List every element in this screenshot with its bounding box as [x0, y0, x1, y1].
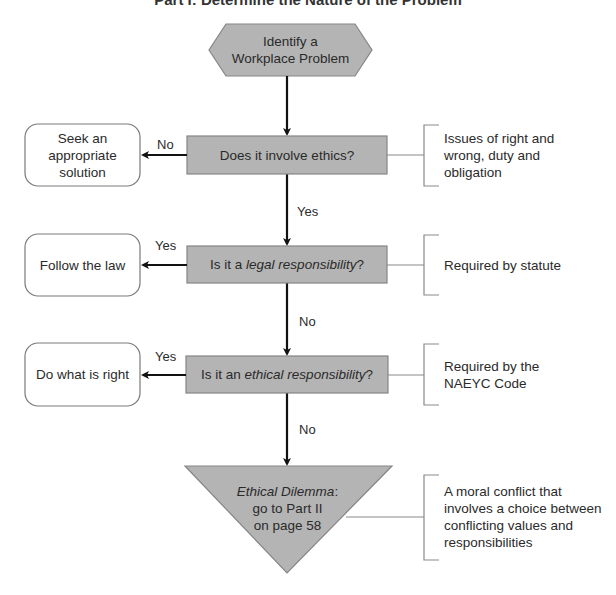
- note-ethics: Issues of right and wrong, duty and obli…: [444, 130, 554, 181]
- note-line: obligation: [444, 164, 554, 181]
- outcome-line: Seek an: [58, 130, 108, 147]
- start-line-1: Identify a: [263, 33, 318, 50]
- start-line-2: Workplace Problem: [232, 50, 350, 67]
- note-line: A moral conflict that: [444, 483, 602, 500]
- outcome-line: Follow the law: [40, 257, 126, 274]
- branch-label-q2-side: Yes: [155, 238, 176, 254]
- note-line: Required by statute: [444, 257, 561, 274]
- bracket-end-note: [424, 475, 439, 560]
- note-legal: Required by statute: [444, 257, 561, 274]
- question-text: Is it an: [201, 367, 245, 382]
- question-suffix: ?: [356, 257, 364, 272]
- outcome-line: appropriate: [48, 147, 116, 164]
- question-emphasis: legal responsibility: [246, 257, 356, 272]
- outcome-do-right-label: Do what is right: [25, 343, 140, 406]
- note-line: Issues of right and: [444, 130, 554, 147]
- note-line: conflicting values and: [444, 517, 602, 534]
- outcome-line: Do what is right: [36, 366, 129, 383]
- question-text: Does it involve ethics?: [220, 148, 354, 163]
- start-label: Identify a Workplace Problem: [209, 24, 372, 76]
- note-ethical-dilemma: A moral conflict that involves a choice …: [444, 483, 602, 551]
- decision-legal-label: Is it a legal responsibility?: [187, 246, 387, 283]
- branch-label-q3-side: Yes: [155, 349, 176, 365]
- note-line: wrong, duty and: [444, 147, 554, 164]
- note-line: Required by the: [444, 358, 539, 375]
- question-suffix: ?: [365, 367, 373, 382]
- decision-ethics-label: Does it involve ethics?: [187, 136, 387, 174]
- ethical-dilemma-label: Ethical Dilemma: go to Part II on page 5…: [210, 480, 365, 536]
- branch-label-q1-down: Yes: [297, 204, 318, 220]
- note-line: NAEYC Code: [444, 375, 539, 392]
- branch-label-q2-down: No: [299, 314, 316, 330]
- outcome-seek-solution-label: Seek an appropriate solution: [25, 124, 140, 186]
- outcome-line: solution: [59, 164, 106, 181]
- question-emphasis: ethical responsibility: [245, 367, 366, 382]
- branch-label-q1-side: No: [157, 137, 174, 153]
- bracket-q3-note: [424, 344, 439, 405]
- bracket-q2-note: [424, 235, 439, 295]
- note-line: involves a choice between: [444, 500, 602, 517]
- dilemma-title: Ethical Dilemma: [237, 484, 335, 499]
- bracket-q1-note: [424, 125, 439, 186]
- dilemma-page-ref: on page 58: [254, 517, 322, 534]
- question-text: Is it a: [210, 257, 246, 272]
- note-ethical-responsibility: Required by the NAEYC Code: [444, 358, 539, 392]
- branch-label-q3-down: No: [299, 422, 316, 438]
- outcome-follow-law-label: Follow the law: [25, 234, 140, 296]
- decision-ethical-responsibility-label: Is it an ethical responsibility?: [186, 356, 388, 393]
- dilemma-title-suffix: :: [334, 484, 338, 499]
- note-line: responsibilities: [444, 534, 602, 551]
- dilemma-line: go to Part II: [253, 500, 323, 517]
